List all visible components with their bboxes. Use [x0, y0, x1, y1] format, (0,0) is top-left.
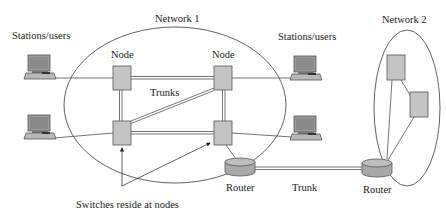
network-diagram: Network 1 Network 2 Stations/users Stati…	[0, 0, 446, 214]
node-top-right-label: Node	[212, 49, 235, 60]
trunks-label: Trunks	[150, 87, 179, 98]
switches-note-label: Switches reside at nodes	[76, 199, 179, 210]
node-bottom-left	[113, 121, 131, 145]
node-bottom-right	[214, 121, 232, 145]
stations-left-label: Stations/users	[12, 30, 70, 41]
router-trunk	[255, 167, 362, 170]
router1-label: Router	[226, 182, 255, 193]
network2-label: Network 2	[382, 14, 427, 25]
network1-trunks	[120, 77, 226, 135]
network1-label: Network 1	[155, 13, 200, 24]
n2-node-top	[387, 55, 405, 80]
computer-icon-right-bottom	[290, 116, 322, 140]
router1-icon	[225, 158, 255, 176]
router2-label: Router	[363, 184, 392, 195]
router2-icon	[362, 159, 392, 177]
computer-icon-left-top	[24, 55, 56, 79]
switches-arrows	[122, 143, 210, 186]
node-top-right	[214, 66, 232, 90]
node-top-left	[113, 66, 131, 90]
node-top-left-label: Node	[111, 49, 134, 60]
computer-icon-right-top	[290, 56, 322, 80]
computer-icon-left-bottom	[24, 115, 56, 139]
n2-node-right	[410, 92, 428, 117]
trunk-label: Trunk	[292, 182, 318, 193]
stations-right-label: Stations/users	[278, 31, 336, 42]
